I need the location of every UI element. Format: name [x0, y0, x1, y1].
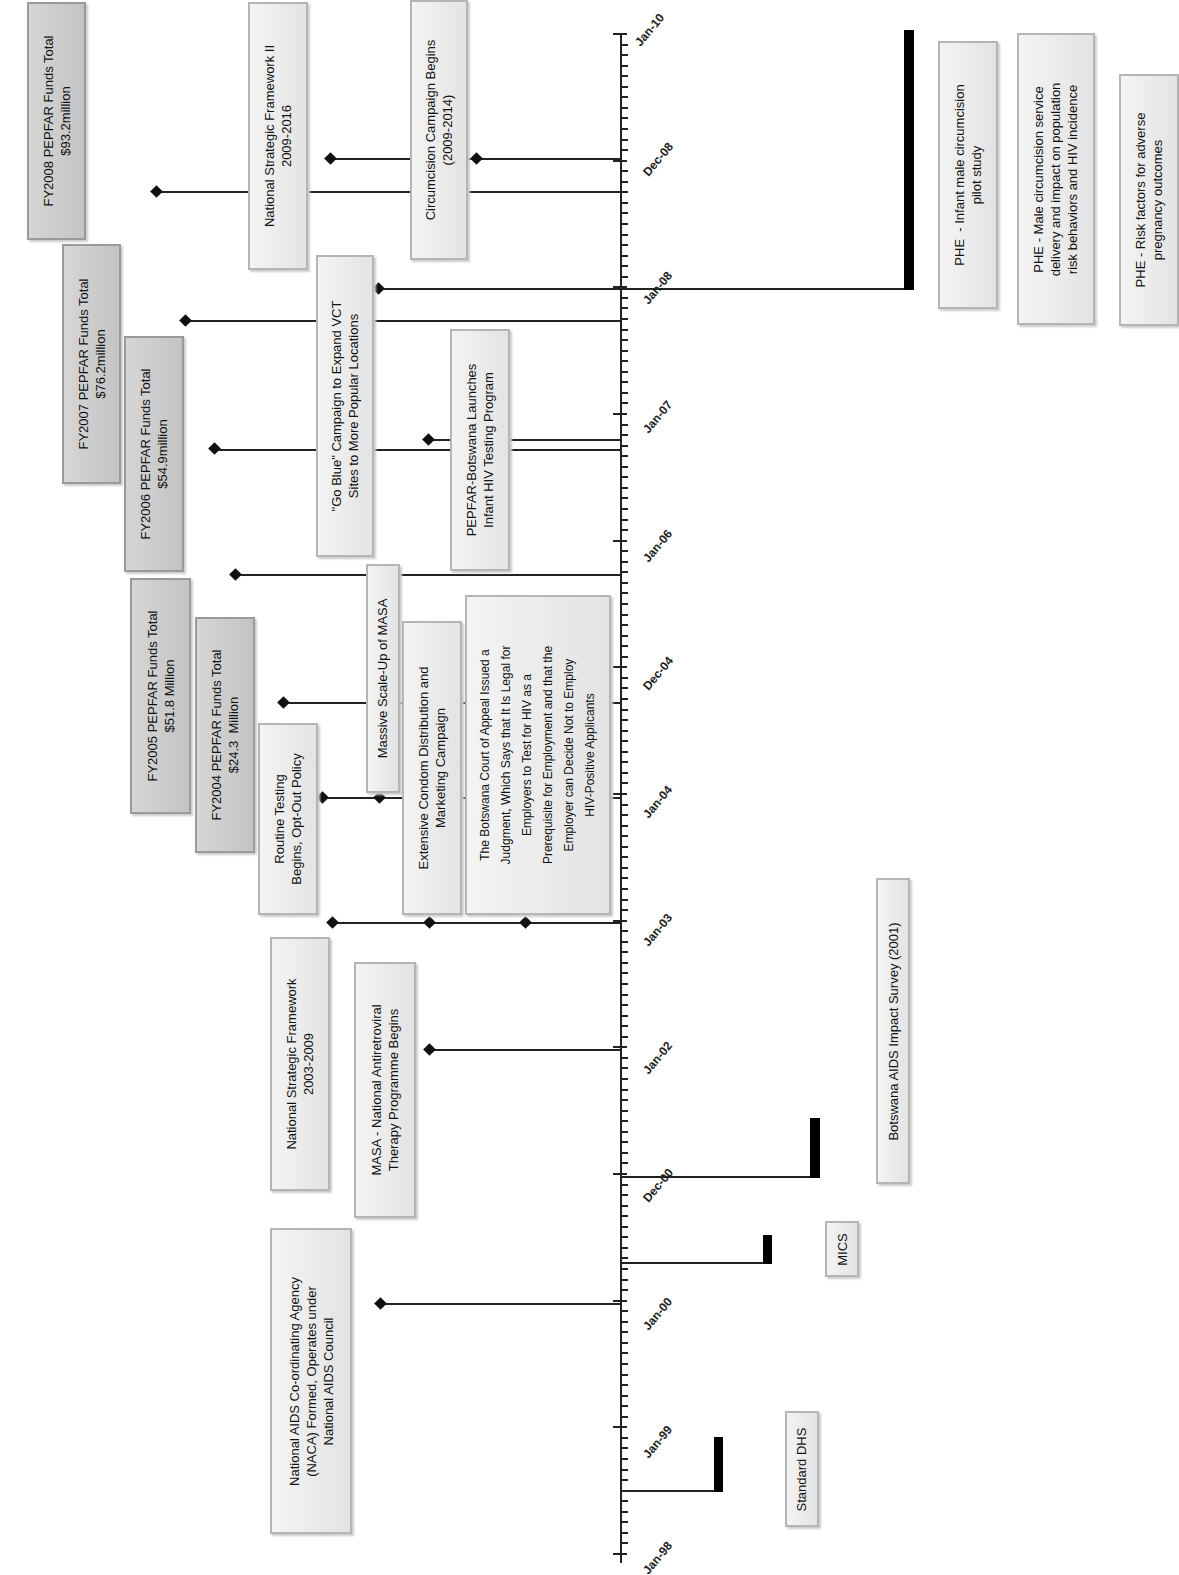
axis-tick: [621, 191, 628, 193]
axis-tick: [621, 1257, 628, 1259]
axis-tick: [621, 1331, 628, 1333]
survey-box-phe-infant: PHE - Infant male circumcision pilot stu…: [938, 41, 998, 309]
axis-tick: [621, 624, 628, 626]
tick-label: Jan-00: [640, 1295, 675, 1333]
tick-label: Jan-03: [640, 911, 675, 949]
axis-tick: [621, 86, 628, 88]
axis-tick: [621, 1289, 628, 1291]
event-box-fy2008: FY2008 PEPFAR Funds Total $93.2million: [27, 2, 86, 240]
diamond-marker: [316, 791, 329, 804]
axis-tick: [621, 1226, 628, 1228]
event-box-circumcision: Circumcision Campaign Begins (2009-2014): [410, 0, 468, 260]
diamond-marker: [374, 1297, 387, 1310]
axis-tick: [621, 1099, 628, 1101]
axis-tick: [621, 1152, 628, 1154]
diamond-marker: [150, 185, 163, 198]
axis-tick: [621, 1279, 628, 1281]
diamond-marker: [422, 433, 435, 446]
axis-tick: [621, 1458, 628, 1460]
axis-tick: [621, 782, 628, 784]
axis-tick: [621, 476, 628, 478]
event-box-court-appeal: The Botswana Court of Appeal Issued a Ju…: [465, 595, 611, 915]
diamond-marker: [423, 1043, 436, 1056]
axis-tick: [621, 234, 628, 236]
axis-tick: [621, 962, 628, 964]
axis-tick: [621, 44, 628, 46]
axis-tick: [621, 1162, 628, 1164]
axis-tick: [621, 360, 628, 362]
axis-tick: [621, 751, 628, 753]
axis-tick: [621, 603, 628, 605]
event-box-routine-testing: Routine Testing Begins, Opt-Out Policy: [258, 723, 318, 915]
axis-tick: [621, 276, 628, 278]
event-box-fy2007: FY2007 PEPFAR Funds Total $76.2million: [62, 244, 121, 484]
axis-tick: [621, 381, 628, 383]
tick-label: Jan-10: [632, 11, 667, 49]
axis-tick: [621, 297, 628, 299]
axis-tick: [621, 635, 628, 637]
axis-tick: [621, 1067, 628, 1069]
axis-tick: [621, 550, 628, 552]
axis-tick: [621, 1352, 628, 1354]
axis-tick: [621, 149, 628, 151]
axis-tick: [621, 994, 628, 996]
axis-tick: [621, 244, 628, 246]
axis-tick: [621, 1236, 628, 1238]
axis-tick: [621, 117, 628, 119]
axis-tick: [621, 1342, 628, 1344]
axis-tick: [621, 719, 628, 721]
diamond-marker: [519, 916, 532, 929]
axis-tick: [621, 740, 628, 742]
axis-tick: [613, 1300, 627, 1302]
event-box-naca: National AIDS Co-ordinating Agency (NACA…: [270, 1228, 352, 1534]
axis-tick: [621, 835, 628, 837]
event-box-nsf: National Strategic Framework 2003-2009: [270, 937, 330, 1191]
axis-tick: [621, 1447, 628, 1449]
diamond-marker: [470, 152, 483, 165]
axis-tick: [621, 371, 628, 373]
axis-tick: [621, 202, 628, 204]
diamond-marker: [324, 152, 337, 165]
axis-tick: [621, 1374, 628, 1376]
axis-tick: [621, 318, 628, 320]
axis-tick: [621, 909, 628, 911]
axis-tick: [621, 877, 628, 879]
axis-tick: [621, 1025, 628, 1027]
event-box-fy2005: FY2005 PEPFAR Funds Total $51.8 Million: [130, 578, 191, 814]
axis-tick: [621, 804, 628, 806]
connector-line: [157, 191, 622, 193]
survey-connector: [622, 1262, 768, 1264]
axis-tick: [621, 656, 628, 658]
axis-tick: [621, 181, 628, 183]
axis-tick: [621, 1215, 628, 1217]
axis-tick: [621, 1479, 628, 1481]
axis-tick: [621, 434, 628, 436]
survey-box-standard-dhs: Standard DHS: [785, 1411, 819, 1527]
axis-tick: [621, 455, 628, 457]
axis-tick: [621, 592, 628, 594]
axis-tick: [621, 65, 628, 67]
axis-tick: [621, 1321, 628, 1323]
survey-bar-phe: [904, 30, 914, 290]
axis-tick: [621, 1363, 628, 1365]
axis-tick: [621, 983, 628, 985]
axis-tick: [621, 730, 628, 732]
diamond-marker: [208, 442, 221, 455]
tick-label: Jan-06: [640, 527, 675, 565]
axis-tick: [621, 424, 628, 426]
connector-line: [430, 1049, 622, 1051]
survey-box-phe-male-circ: PHE - Male circumcision service delivery…: [1017, 33, 1095, 325]
axis-tick: [621, 1532, 628, 1534]
axis-tick: [621, 1310, 628, 1312]
connector-line: [378, 288, 908, 290]
event-box-massive-scale-up: Massive Scale-Up of MASA: [366, 564, 400, 793]
axis-tick: [621, 1120, 628, 1122]
survey-bar-bais: [810, 1118, 820, 1178]
axis-tick: [621, 255, 628, 257]
axis-tick: [621, 614, 628, 616]
axis-tick: [621, 772, 628, 774]
axis-tick: [621, 1268, 628, 1270]
axis-tick: [621, 75, 628, 77]
axis-tick: [613, 1173, 627, 1175]
axis-tick: [613, 540, 627, 542]
